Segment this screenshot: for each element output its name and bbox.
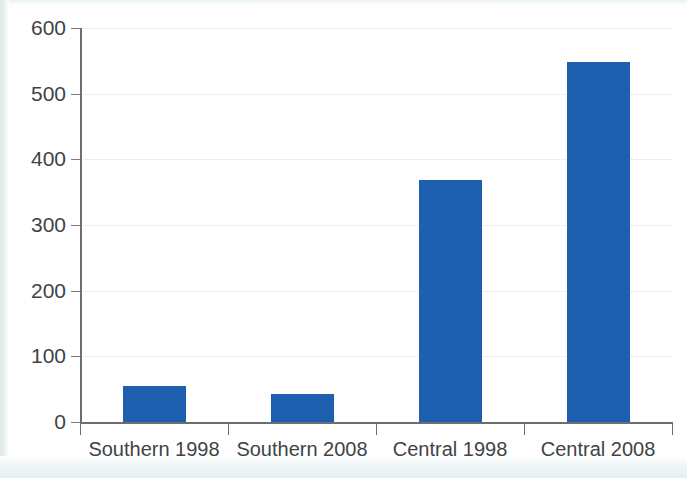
y-tick-mark — [71, 159, 80, 160]
y-tick-mark — [71, 356, 80, 357]
bar — [419, 180, 482, 422]
y-tick-label: 100 — [0, 343, 66, 369]
y-tick-mark — [71, 291, 80, 292]
y-tick-mark — [71, 94, 80, 95]
y-tick-label: 300 — [0, 212, 66, 238]
bar — [123, 386, 186, 422]
y-tick-mark — [71, 225, 80, 226]
bar — [567, 62, 630, 422]
chart-page: 0100200300400500600 Southern 1998Souther… — [0, 0, 687, 478]
y-tick-label: 500 — [0, 81, 66, 107]
x-tick-mark — [376, 423, 377, 435]
x-tick-mark — [80, 423, 81, 435]
x-tick-mark — [228, 423, 229, 435]
page-edge-left — [0, 0, 9, 478]
x-axis-label: Southern 2008 — [228, 437, 376, 461]
y-tick-label: 200 — [0, 278, 66, 304]
bar — [271, 394, 334, 422]
x-axis-label: Central 2008 — [524, 437, 672, 461]
x-tick-mark — [672, 423, 673, 435]
x-axis-label: Central 1998 — [376, 437, 524, 461]
y-tick-label: 600 — [0, 15, 66, 41]
y-tick-mark — [71, 422, 80, 423]
x-axis-label: Southern 1998 — [80, 437, 228, 461]
y-tick-label: 400 — [0, 146, 66, 172]
x-tick-mark — [524, 423, 525, 435]
y-tick-label: 0 — [0, 409, 66, 435]
page-edge-top — [0, 0, 687, 6]
y-tick-mark — [71, 28, 80, 29]
bar-series — [80, 28, 672, 422]
